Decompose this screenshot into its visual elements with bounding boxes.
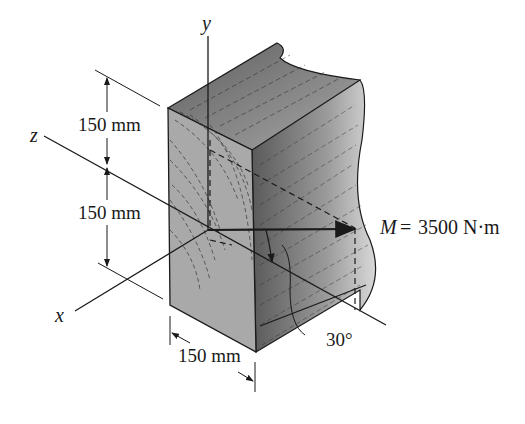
moment-value: 3500 N·m — [418, 216, 500, 238]
dim-label-width: 150 mm — [178, 345, 241, 366]
moment-equals: = — [400, 216, 411, 238]
moment-symbol: M — [379, 216, 398, 238]
extension-line-top — [95, 70, 160, 106]
beam-moment-diagram: y z x 150 mm 150 mm 150 mm M = 3500 N·m … — [0, 0, 525, 424]
x-axis-label: x — [54, 304, 64, 326]
y-axis-label: y — [200, 12, 211, 35]
extension-line-bottom — [98, 263, 163, 299]
dim-width-left — [172, 333, 190, 343]
dim-label-lower: 150 mm — [78, 202, 141, 223]
dim-width-right — [238, 372, 253, 381]
z-axis-label: z — [29, 124, 38, 146]
dim-label-upper: 150 mm — [78, 114, 141, 135]
moment-vector — [208, 229, 355, 230]
angle-label: 30° — [326, 329, 353, 350]
